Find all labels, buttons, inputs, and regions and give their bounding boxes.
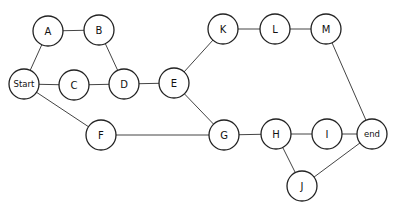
edge-m-end bbox=[326, 29, 372, 134]
node-label: K bbox=[220, 24, 227, 35]
node-h: H bbox=[261, 119, 291, 149]
node-label: M bbox=[322, 24, 331, 35]
node-l: L bbox=[260, 14, 290, 44]
node-label: H bbox=[272, 129, 280, 140]
node-end: end bbox=[357, 119, 387, 149]
node-i: I bbox=[312, 119, 342, 149]
node-e: E bbox=[159, 68, 189, 98]
node-label: J bbox=[300, 181, 304, 192]
node-d: D bbox=[109, 69, 139, 99]
node-label: Start bbox=[14, 79, 35, 89]
node-label: G bbox=[220, 130, 228, 141]
node-k: K bbox=[208, 14, 238, 44]
node-label: D bbox=[120, 79, 128, 90]
node-label: E bbox=[171, 78, 177, 89]
node-b: B bbox=[84, 15, 114, 45]
node-label: L bbox=[272, 24, 278, 35]
node-label: F bbox=[98, 130, 104, 141]
node-c: C bbox=[59, 70, 89, 100]
node-label: B bbox=[96, 25, 103, 36]
node-label: end bbox=[364, 129, 380, 139]
node-g: G bbox=[209, 120, 239, 150]
node-a: A bbox=[33, 16, 63, 46]
node-label: C bbox=[71, 80, 78, 91]
node-label: I bbox=[326, 129, 329, 140]
node-m: M bbox=[311, 14, 341, 44]
edges-layer bbox=[24, 29, 372, 186]
graph-diagram: ABStartCDEKLMFGHIendJ bbox=[0, 0, 401, 213]
node-label: A bbox=[45, 26, 52, 37]
node-f: F bbox=[86, 120, 116, 150]
node-j: J bbox=[287, 171, 317, 201]
node-start: Start bbox=[9, 69, 39, 99]
